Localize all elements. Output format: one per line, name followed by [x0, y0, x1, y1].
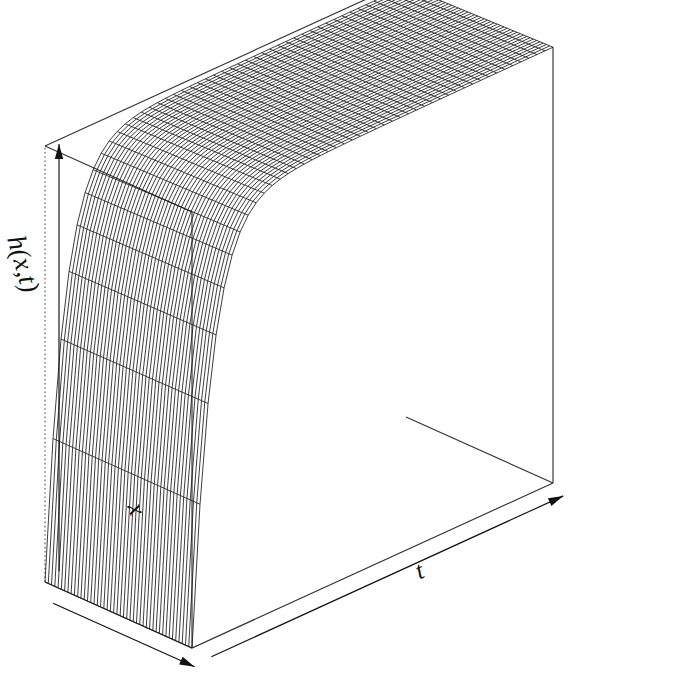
surface-plot-canvas — [0, 0, 684, 679]
surface-plot-figure: h(x,t) x t — [0, 0, 684, 679]
